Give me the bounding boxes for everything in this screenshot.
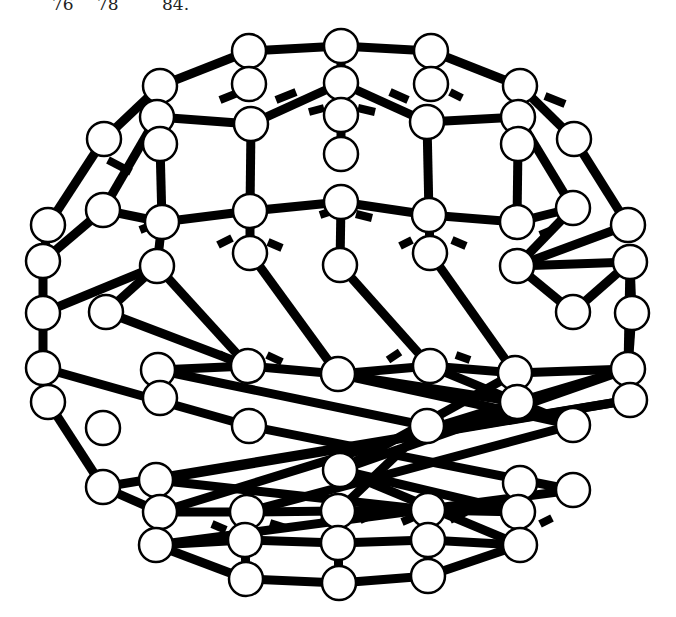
hidden-bond-stub <box>388 352 400 360</box>
carbon-atom <box>232 34 266 68</box>
carbon-atom <box>414 67 448 101</box>
carbon-atom <box>500 249 534 283</box>
carbon-atom <box>611 352 645 386</box>
carbon-atom <box>556 473 590 507</box>
carbon-atom <box>26 351 60 385</box>
carbon-atom <box>231 349 265 383</box>
hidden-bond-stub <box>545 96 565 104</box>
carbon-atom <box>87 122 121 156</box>
carbon-atom <box>411 523 445 557</box>
carbon-atom <box>31 385 65 419</box>
carbon-atom <box>413 236 447 270</box>
carbon-atom <box>143 69 177 103</box>
carbon-atom <box>228 523 262 557</box>
carbon-atom <box>501 127 535 161</box>
carbon-atom <box>557 122 591 156</box>
carbon-atom <box>233 236 267 270</box>
hidden-bond-stub <box>267 355 282 362</box>
hidden-bond-stub <box>268 242 282 248</box>
carbon-atom <box>613 383 647 417</box>
carbon-atom <box>556 191 590 225</box>
carbon-atom <box>233 194 267 228</box>
hidden-bond-stub <box>356 214 372 218</box>
hidden-bond-stub <box>309 108 324 112</box>
carbon-atom <box>321 494 355 528</box>
carbon-atom <box>139 528 173 562</box>
carbon-atom <box>556 408 590 442</box>
carbon-atom <box>143 495 177 529</box>
hidden-bond-stub <box>400 240 412 246</box>
hidden-bond-stub <box>456 355 470 360</box>
carbon-atom <box>324 137 358 171</box>
bond <box>340 265 430 366</box>
hidden-bond-stub <box>540 518 552 524</box>
hidden-bond-stub <box>452 240 466 246</box>
carbon-atom <box>86 470 120 504</box>
carbon-atom <box>323 453 357 487</box>
carbon-atom <box>414 34 448 68</box>
carbon-atom <box>412 198 446 232</box>
carbon-atom <box>140 249 174 283</box>
carbon-atom <box>324 98 358 132</box>
carbon-atom <box>501 495 535 529</box>
carbon-atom <box>410 105 444 139</box>
carbon-atom <box>89 295 123 329</box>
carbon-atom <box>615 296 649 330</box>
carbon-atom <box>234 107 268 141</box>
carbon-atom <box>503 528 537 562</box>
carbon-atom <box>324 66 358 100</box>
carbon-atom <box>556 295 590 329</box>
carbon-atom <box>413 349 447 383</box>
carbon-atom <box>500 385 534 419</box>
carbon-atom <box>503 69 537 103</box>
carbon-atom <box>410 409 444 443</box>
carbon-atom <box>324 185 358 219</box>
hidden-bond-stub <box>358 108 375 112</box>
carbon-atom <box>229 562 263 596</box>
carbon-atom <box>31 208 65 242</box>
carbon-atom <box>613 245 647 279</box>
carbon-atom <box>324 29 358 63</box>
carbon-atom <box>86 411 120 445</box>
carbon-atom <box>232 409 266 443</box>
carbon-atom <box>143 127 177 161</box>
carbon-atom <box>322 566 356 600</box>
hidden-bond-stub <box>218 238 232 245</box>
carbon-atom <box>26 244 60 278</box>
carbon-atom <box>321 357 355 391</box>
carbon-atom <box>145 205 179 239</box>
carbon-atom <box>232 67 266 101</box>
hidden-bond-stub <box>450 92 462 98</box>
carbon-atom <box>321 526 355 560</box>
hidden-bond-stub <box>212 524 226 530</box>
fullerene-diagram <box>0 0 676 617</box>
hidden-bond-stub <box>390 92 408 100</box>
carbon-atom <box>611 208 645 242</box>
carbon-atom <box>323 248 357 282</box>
carbon-atom <box>500 205 534 239</box>
carbon-atom <box>411 559 445 593</box>
carbon-atom <box>86 193 120 227</box>
hidden-bond-stub <box>276 92 296 100</box>
carbon-atom <box>26 296 60 330</box>
carbon-atom <box>139 463 173 497</box>
carbon-atom <box>143 381 177 415</box>
